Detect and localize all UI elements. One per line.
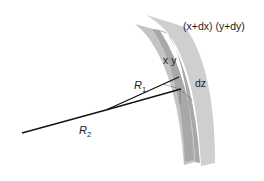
thickness-label: dz	[195, 77, 206, 89]
radius-lines	[22, 77, 181, 133]
r2-line	[22, 110, 106, 133]
outer-coords-label: (x+dx) (y+dy)	[183, 20, 245, 32]
curvature-diagram: (x+dx) (y+dy) x y dz R1 R2	[0, 0, 264, 181]
inner-coords-label: x y	[163, 54, 177, 66]
r1-label: R1	[134, 79, 146, 94]
r2-label: R2	[79, 124, 91, 139]
